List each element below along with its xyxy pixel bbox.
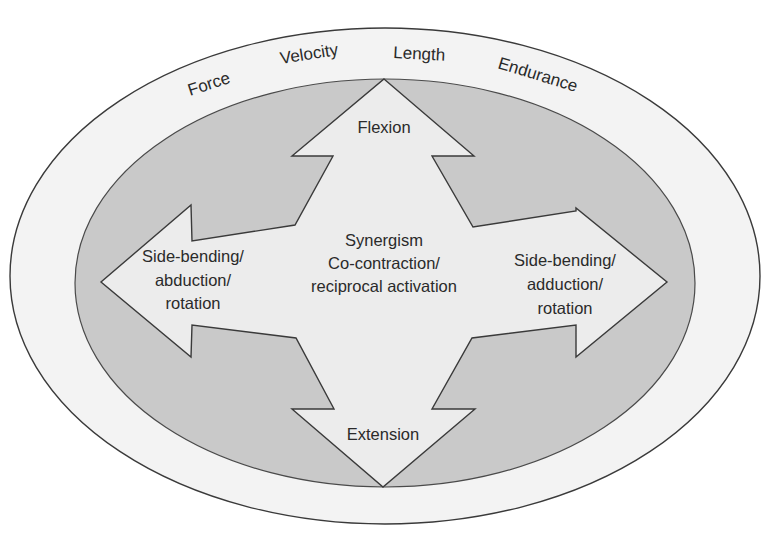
left-label-line-3: rotation — [165, 294, 220, 312]
diagram-canvas: Force Velocity Length Endurance Flexion … — [0, 0, 772, 554]
arrow-label-extension: Extension — [347, 425, 419, 443]
arrow-label-flexion: Flexion — [357, 118, 410, 136]
left-label-line-1: Side-bending/ — [142, 247, 244, 265]
left-label-line-2: abduction/ — [155, 271, 232, 289]
center-line-1: Synergism — [345, 231, 423, 249]
center-line-2: Co-contraction/ — [328, 254, 440, 272]
right-label-line-1: Side-bending/ — [514, 251, 616, 269]
right-label-line-2: adduction/ — [527, 275, 604, 293]
right-label-line-3: rotation — [537, 299, 592, 317]
ring-label-length: Length — [393, 43, 446, 65]
center-line-3: reciprocal activation — [311, 277, 457, 295]
